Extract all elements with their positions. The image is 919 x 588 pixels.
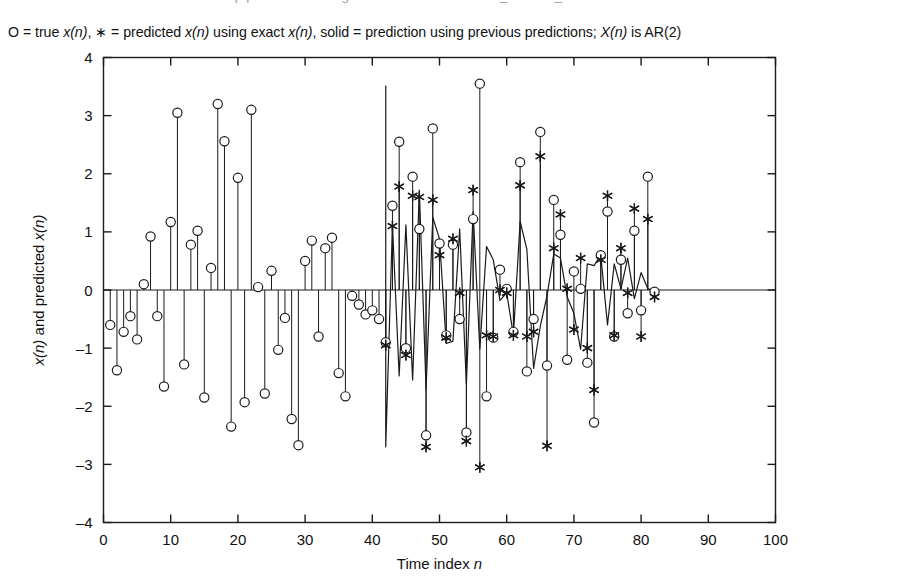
data-point-circle xyxy=(327,233,336,242)
y-tick-label: 0 xyxy=(84,282,92,299)
data-point-circle xyxy=(542,361,551,370)
data-point-circle xyxy=(227,422,236,431)
data-point-circle xyxy=(435,239,444,248)
data-point-circle xyxy=(193,226,202,235)
data-point-circle xyxy=(516,158,525,167)
data-point-circle xyxy=(166,217,175,226)
y-tick-label: 2 xyxy=(84,165,92,182)
data-point-circle xyxy=(334,369,343,378)
data-point-circle xyxy=(482,392,491,401)
data-point-circle xyxy=(146,232,155,241)
data-point-asterisk xyxy=(435,250,444,261)
data-point-circle xyxy=(529,314,538,323)
x-tick-label: 80 xyxy=(633,531,650,548)
data-point-circle xyxy=(428,124,437,133)
y-tick-label: –1 xyxy=(76,340,93,357)
x-tick-label: 20 xyxy=(230,531,247,548)
data-point-asterisk xyxy=(475,462,484,473)
data-point-circle xyxy=(630,226,639,235)
data-point-circle xyxy=(388,201,397,210)
data-point-circle xyxy=(576,284,585,293)
data-point-circle xyxy=(623,309,632,318)
data-point-circle xyxy=(616,255,625,264)
data-point-asterisk xyxy=(616,243,625,254)
data-point-asterisk xyxy=(388,221,397,232)
x-tick-label: 0 xyxy=(99,531,107,548)
data-point-circle xyxy=(280,313,289,322)
data-point-circle xyxy=(247,105,256,114)
data-point-asterisk xyxy=(636,331,645,342)
data-point-circle xyxy=(354,300,363,309)
x-tick-label: 70 xyxy=(566,531,583,548)
data-point-circle xyxy=(173,108,182,117)
data-point-circle xyxy=(267,266,276,275)
data-point-circle xyxy=(462,428,471,437)
data-point-circle xyxy=(408,172,417,181)
data-point-circle xyxy=(583,358,592,367)
data-point-circle xyxy=(153,312,162,321)
data-point-asterisk xyxy=(623,288,632,299)
data-point-circle xyxy=(119,327,128,336)
data-point-asterisk xyxy=(583,343,592,354)
x-tick-label: 10 xyxy=(162,531,179,548)
data-point-circle xyxy=(126,312,135,321)
x-tick-label: 40 xyxy=(364,531,381,548)
data-point-circle xyxy=(495,265,504,274)
x-axis-title: Time index n xyxy=(397,555,482,572)
data-point-asterisk xyxy=(563,283,572,294)
data-point-asterisk xyxy=(395,181,404,192)
data-point-circle xyxy=(200,393,209,402)
data-point-asterisk xyxy=(542,440,551,451)
data-point-asterisk xyxy=(536,151,545,162)
data-point-circle xyxy=(522,367,531,376)
data-point-circle xyxy=(253,282,262,291)
x-tick-label: 100 xyxy=(763,531,788,548)
data-point-circle xyxy=(556,230,565,239)
data-point-circle xyxy=(374,314,383,323)
data-point-asterisk xyxy=(421,442,430,453)
y-tick-label: –4 xyxy=(76,514,93,531)
data-point-circle xyxy=(159,382,168,391)
data-point-circle xyxy=(186,240,195,249)
data-point-circle xyxy=(341,392,350,401)
y-tick-label: 3 xyxy=(84,107,92,124)
data-point-circle xyxy=(139,280,148,289)
data-point-asterisk xyxy=(529,326,538,337)
data-point-circle xyxy=(274,345,283,354)
data-point-asterisk xyxy=(468,185,477,196)
data-point-circle xyxy=(314,332,323,341)
y-tick-label: 4 xyxy=(84,49,92,66)
data-point-circle xyxy=(180,360,189,369)
data-point-circle xyxy=(415,224,424,233)
x-tick-label: 30 xyxy=(297,531,314,548)
chart-svg: –4–3–2–1012340102030405060708090100Time … xyxy=(0,0,919,588)
y-tick-label: –3 xyxy=(76,456,93,473)
data-point-circle xyxy=(213,99,222,108)
data-point-asterisk xyxy=(589,385,598,396)
data-point-circle xyxy=(589,418,598,427)
data-point-circle xyxy=(287,414,296,423)
data-point-circle xyxy=(368,306,377,315)
data-point-circle xyxy=(301,256,310,265)
data-point-asterisk xyxy=(643,214,652,225)
true-value-circle-markers xyxy=(106,79,660,450)
data-point-circle xyxy=(240,398,249,407)
data-point-circle xyxy=(569,267,578,276)
data-point-asterisk xyxy=(522,331,531,342)
data-point-asterisk xyxy=(462,436,471,447)
data-point-asterisk xyxy=(576,253,585,264)
data-point-asterisk xyxy=(603,190,612,201)
x-tick-label: 50 xyxy=(431,531,448,548)
data-point-asterisk xyxy=(630,203,639,214)
data-point-circle xyxy=(321,244,330,253)
x-tick-label: 90 xyxy=(700,531,717,548)
data-point-asterisk xyxy=(556,209,565,220)
data-point-circle xyxy=(603,207,612,216)
data-point-circle xyxy=(233,173,242,182)
data-point-circle xyxy=(220,137,229,146)
data-point-circle xyxy=(549,195,558,204)
data-point-circle xyxy=(348,291,357,300)
data-point-circle xyxy=(563,355,572,364)
data-point-circle xyxy=(536,127,545,136)
data-point-circle xyxy=(133,335,142,344)
